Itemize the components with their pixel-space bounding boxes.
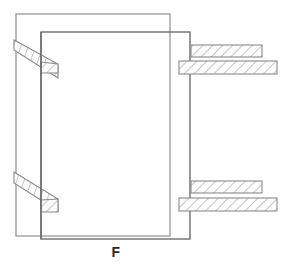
upper-right-outer-bar — [179, 61, 277, 74]
figure-caption: F — [0, 243, 232, 261]
lower-right-inner-bar — [191, 181, 262, 193]
technical-drawing-figure: F — [0, 0, 293, 264]
upper-right-inner-bar — [191, 45, 262, 57]
drawing-canvas — [0, 0, 293, 264]
lower-right-outer-bar — [179, 198, 277, 211]
front-plate-outline — [41, 32, 190, 239]
